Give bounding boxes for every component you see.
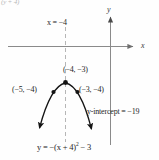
y-axis-label: y bbox=[107, 6, 110, 14]
x-axis-label: x bbox=[141, 42, 144, 50]
y-intercept-label: y-intercept = −19 bbox=[87, 108, 139, 116]
parabola-left-branch bbox=[40, 83, 66, 128]
graph-canvas bbox=[0, 0, 159, 160]
left-point-label: (−5, −4) bbox=[12, 86, 37, 94]
parabola-figure: (y + 4) x = −4 y x (−4, −3) (−5, −4) (−3… bbox=[0, 0, 159, 160]
left-marked-point bbox=[51, 90, 55, 94]
equation-label: y = −(x + 4)2 − 3 bbox=[37, 143, 91, 152]
right-point-label: (−3, −4) bbox=[79, 86, 104, 94]
vertex-label: (−4, −3) bbox=[63, 66, 88, 74]
equation-tail: − 3 bbox=[78, 142, 91, 152]
axis-of-symmetry-label: x = −4 bbox=[47, 19, 67, 27]
vertex-point bbox=[63, 80, 68, 85]
cropped-header-fragment: (y + 4) bbox=[1, 0, 19, 6]
equation-base: y = −(x + 4) bbox=[37, 142, 76, 152]
